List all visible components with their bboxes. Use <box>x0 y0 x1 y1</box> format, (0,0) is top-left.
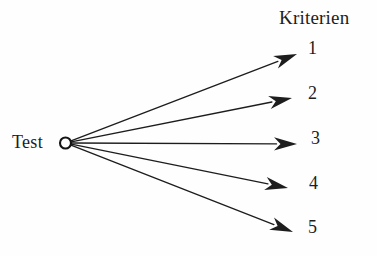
criterion-label-3: 3 <box>311 129 320 147</box>
source-label: Test <box>12 133 43 151</box>
edge-line-4 <box>71 144 268 184</box>
criterion-label-4: 4 <box>309 174 318 192</box>
criterion-label-2: 2 <box>308 84 317 102</box>
criterion-label-1: 1 <box>308 39 317 57</box>
node-group <box>60 138 71 149</box>
edge-line-2 <box>71 102 272 142</box>
header-label: Kriterien <box>279 8 349 27</box>
circle-node-icon <box>60 138 71 149</box>
edge-line-5 <box>71 145 274 224</box>
edge-line-1 <box>71 61 278 141</box>
arrow-right-icon <box>274 137 297 150</box>
edge-group <box>71 54 297 232</box>
criterion-label-5: 5 <box>308 218 317 236</box>
edge-line-3 <box>71 143 276 144</box>
diagram-canvas: Kriterien Test 1 2 3 4 5 <box>0 0 377 256</box>
diagram-graphics <box>0 0 377 256</box>
